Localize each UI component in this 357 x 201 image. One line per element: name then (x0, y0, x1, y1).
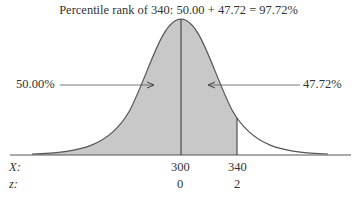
x-tick-300: 300 (171, 160, 190, 175)
right-area-label: 47.72% (303, 77, 342, 92)
x-tick-340: 340 (228, 160, 247, 175)
shaded-area (32, 19, 237, 155)
z-tick-2: 2 (234, 177, 240, 192)
left-area-label: 50.00% (16, 77, 55, 92)
z-tick-0: 0 (177, 177, 183, 192)
z-row-label: z: (9, 177, 18, 192)
x-row-label: X: (9, 160, 21, 175)
